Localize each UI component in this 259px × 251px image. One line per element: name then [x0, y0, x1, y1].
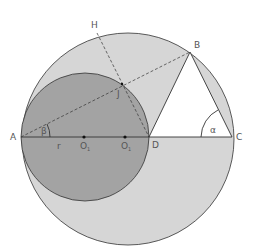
label-d: D	[152, 140, 159, 150]
label-r: r	[57, 141, 61, 151]
label-a: A	[10, 132, 17, 142]
label-c: C	[236, 132, 242, 142]
point-j	[121, 83, 123, 85]
geometry-diagram: A B C D H J r O1 O1 α β	[0, 0, 259, 251]
label-b: B	[194, 40, 200, 50]
label-h: H	[91, 20, 98, 30]
label-j: J	[116, 89, 120, 99]
point-o1a	[82, 135, 85, 138]
label-beta: β	[41, 126, 47, 136]
label-alpha: α	[210, 125, 216, 135]
point-o1b	[123, 135, 126, 138]
